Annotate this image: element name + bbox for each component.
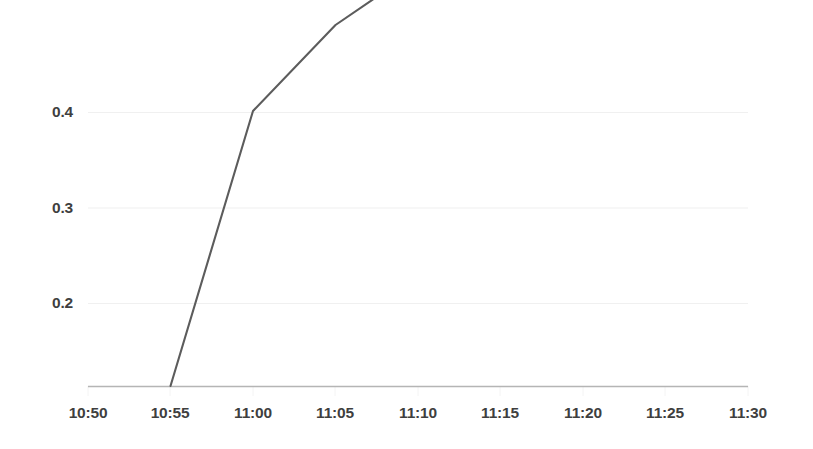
chart-plot-area	[0, 0, 813, 449]
gridlines	[88, 113, 748, 304]
line-chart: 10:50 10:55 11:00 11:05 11:10 11:15 11:2…	[0, 0, 813, 449]
x-tick-marks	[88, 386, 748, 396]
series-line	[171, 0, 666, 386]
